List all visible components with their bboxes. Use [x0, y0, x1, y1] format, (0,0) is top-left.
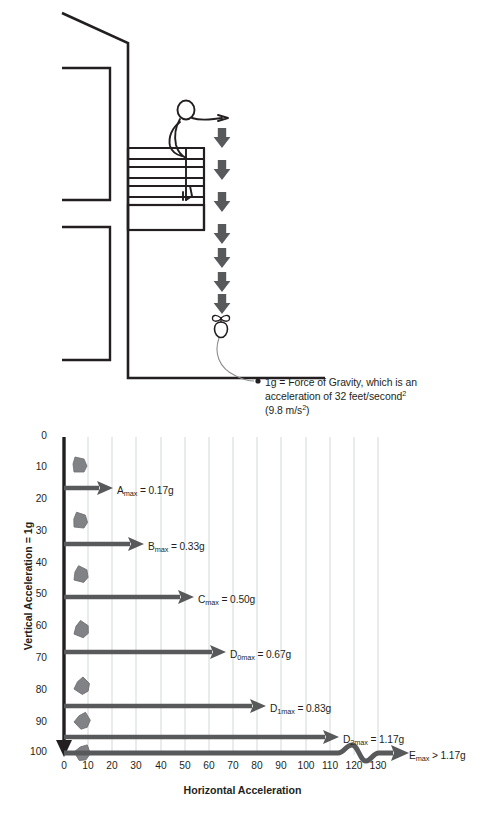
- arrow-label-D1: D1max = 0.83g: [270, 703, 331, 714]
- label-sub-B: max: [155, 545, 169, 554]
- arrow-D1: [64, 699, 266, 713]
- arrow-E-axis: [64, 745, 409, 761]
- arrow-D2: [64, 730, 339, 744]
- label-base-E: E: [409, 750, 416, 761]
- balcony: [128, 148, 204, 230]
- arrow-label-C: Cmax = 0.50g: [198, 594, 255, 605]
- y-axis-title: Vertical Acceleration = 1g: [22, 486, 34, 686]
- caption-line-3: (9.8 m/s: [265, 405, 302, 416]
- caption-leader-line: [217, 338, 254, 381]
- arrow-label-A: Amax = 0.17g: [117, 485, 174, 496]
- x-tick-60: 60: [197, 760, 221, 771]
- y-tick-10: 10: [21, 461, 47, 472]
- x-tick-70: 70: [221, 760, 245, 771]
- x-tick-80: 80: [245, 760, 269, 771]
- x-tick-110: 110: [318, 760, 342, 771]
- label-rest-B: = 0.33g: [171, 541, 205, 552]
- label-base-A: A: [117, 485, 124, 496]
- x-tick-130: 130: [366, 760, 390, 771]
- falling-arrow-chain: [214, 128, 231, 314]
- label-sub-C: max: [205, 598, 219, 607]
- x-tick-30: 30: [124, 760, 148, 771]
- caption-bullet: [255, 378, 260, 383]
- chart-arrows: [64, 481, 409, 761]
- label-rest-E: > 1.17g: [432, 750, 466, 761]
- x-tick-20: 20: [100, 760, 124, 771]
- arrow-label-D0: D0max = 0.67g: [230, 649, 291, 660]
- label-sub-D2: 2max: [350, 738, 367, 747]
- arrow-label-D2: D2max = 1.17g: [343, 734, 404, 745]
- caption-sup-1: 2: [402, 389, 406, 398]
- label-rest-D1: = 0.83g: [297, 703, 331, 714]
- arrow-label-E: Emax > 1.17g: [409, 750, 466, 761]
- label-rest-A: = 0.17g: [140, 485, 174, 496]
- x-tick-40: 40: [149, 760, 173, 771]
- arrow-B: [64, 537, 144, 551]
- label-rest-C: = 0.50g: [222, 594, 256, 605]
- x-axis-title: Horizontal Acceleration: [0, 784, 485, 796]
- y-tick-90: 90: [21, 716, 47, 727]
- y-tick-0: 0: [21, 430, 47, 441]
- label-sub-D1: 1max: [277, 707, 294, 716]
- window-lower: [62, 227, 110, 360]
- arrow-C: [64, 590, 194, 604]
- x-tick-120: 120: [342, 760, 366, 771]
- y-tick-100: 100: [21, 746, 47, 757]
- arrow-label-B: Bmax = 0.33g: [148, 541, 205, 552]
- gravity-caption: 1g = Force of Gravity, which is an accel…: [265, 376, 477, 419]
- x-tick-90: 90: [269, 760, 293, 771]
- x-tick-0: 0: [52, 760, 76, 771]
- caption-line-1: 1g = Force of Gravity, which is an: [265, 377, 417, 388]
- label-sub-A: max: [124, 489, 138, 498]
- x-tick-10: 10: [76, 760, 100, 771]
- label-rest-D0: = 0.67g: [257, 649, 291, 660]
- building-illustration: [62, 13, 325, 384]
- caption-tail: ): [306, 405, 309, 416]
- window-upper: [62, 68, 110, 200]
- x-tick-50: 50: [173, 760, 197, 771]
- x-tick-100: 100: [294, 760, 318, 771]
- label-sub-E: max: [416, 754, 430, 763]
- chart-markers: [73, 457, 94, 763]
- label-base-B: B: [148, 541, 155, 552]
- caption-line-2: acceleration of 32 feet/second: [265, 391, 402, 402]
- label-sub-D0: 0max: [237, 653, 254, 662]
- label-rest-D2: = 1.17g: [370, 734, 404, 745]
- apple-icon: [212, 315, 229, 337]
